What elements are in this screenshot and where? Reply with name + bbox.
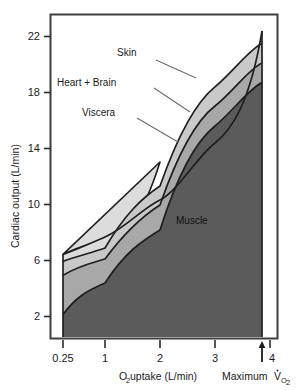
label-viscera: Viscera: [82, 107, 116, 118]
x-tick-label: 1: [102, 352, 108, 364]
max-vo2-v: V: [274, 370, 281, 382]
y-tick-label: 22: [28, 30, 40, 42]
chart-figure: 2 6 10 14 18 22 Cardiac output (L/min) 0…: [0, 0, 304, 390]
x-tick-label: 2: [157, 352, 163, 364]
y-tick-label: 14: [28, 142, 40, 154]
x-tick-label: 4: [269, 352, 275, 364]
area-chart-svg: 2 6 10 14 18 22 Cardiac output (L/min) 0…: [0, 0, 304, 390]
y-tick-label: 2: [34, 310, 40, 322]
y-axis-title: Cardiac output (L/min): [9, 144, 21, 248]
label-skin: Skin: [117, 47, 136, 58]
label-heart-brain: Heart + Brain: [57, 77, 116, 88]
y-tick-label: 10: [28, 198, 40, 210]
x-tick-label: 0.25: [52, 352, 73, 364]
max-vo2-word: Maximum: [222, 370, 268, 382]
y-tick-label: 18: [28, 86, 40, 98]
label-muscle: Muscle: [176, 215, 208, 226]
y-tick-label: 6: [34, 254, 40, 266]
vo2-dot-icon: [277, 370, 279, 372]
max-vo2-sub-2: 2: [286, 378, 290, 387]
x-axis-title-rest: uptake (L/min): [130, 370, 197, 382]
x-tick-label: 3: [212, 352, 218, 364]
